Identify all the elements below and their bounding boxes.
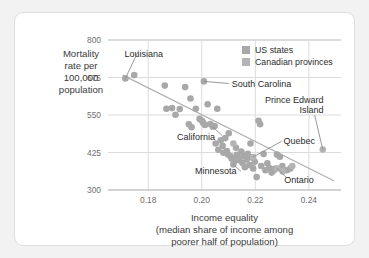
x-axis-ticks: 0.180.200.220.24: [140, 195, 317, 205]
annotation-label: Island: [300, 105, 324, 115]
legend-swatch: [242, 58, 250, 66]
x-axis-tick-label: 0.18: [140, 195, 157, 205]
data-point: [247, 140, 254, 147]
data-point: [172, 111, 179, 118]
x-axis-title-line: poorer half of population): [171, 236, 278, 247]
x-axis-title-line: Income equality: [191, 212, 258, 223]
annotation-label: Prince Edward: [265, 95, 324, 105]
y-axis-title-line: population: [59, 84, 103, 95]
y-axis-ticks: 300425550675800: [87, 35, 101, 195]
x-axis-title: Income equality(median share of income a…: [156, 212, 294, 247]
data-point: [163, 105, 170, 112]
annotation-leader-line: [315, 115, 323, 150]
y-axis-tick-label: 800: [87, 35, 101, 45]
annotation-label: Quebec: [283, 136, 315, 146]
annotation-leaders: [125, 51, 322, 178]
data-point: [277, 153, 284, 160]
y-axis-tick-label: 550: [87, 110, 101, 120]
y-axis-title-line: 100,000: [64, 72, 99, 83]
annotation-label: Minnesota: [195, 166, 237, 176]
data-point: [230, 140, 237, 147]
trend-line: [123, 75, 335, 181]
data-point: [182, 84, 189, 91]
regression-line: [123, 75, 335, 181]
data-point: [219, 143, 226, 150]
scatter-chart: 300425550675800 0.180.200.220.24 Louisia…: [15, 13, 356, 247]
data-point: [289, 163, 296, 170]
x-axis-title-line: (median share of income among: [156, 224, 294, 235]
chart-card: 300425550675800 0.180.200.220.24 Louisia…: [14, 12, 355, 246]
annotation-label: Ontario: [284, 175, 314, 185]
legend-swatch: [242, 46, 250, 54]
y-axis-tick-label: 425: [87, 148, 101, 158]
legend-label: Canadian provinces: [255, 57, 333, 67]
annotation-label: Louisiana: [125, 49, 164, 59]
data-point: [253, 174, 260, 181]
legend-label: US states: [255, 45, 294, 55]
data-point: [257, 121, 264, 128]
data-point: [161, 82, 168, 89]
chart-svg: 300425550675800 0.180.200.220.24 Louisia…: [15, 13, 356, 247]
y-axis-title-line: rate per: [64, 60, 98, 71]
data-point: [225, 130, 232, 137]
data-point: [131, 72, 138, 79]
annotation-label: South Carolina: [232, 79, 292, 89]
x-axis-tick-label: 0.22: [247, 195, 264, 205]
annotation-label: California: [177, 132, 215, 142]
y-axis-title-line: Mortality: [63, 48, 99, 59]
data-point: [250, 165, 257, 172]
y-axis-tick-label: 300: [87, 185, 101, 195]
data-point: [204, 101, 211, 108]
data-point: [214, 105, 221, 112]
y-axis-title: Mortalityrate per100,000population: [59, 48, 103, 95]
annotation-leader-line: [204, 81, 229, 83]
x-axis-tick-label: 0.20: [194, 195, 211, 205]
data-point: [122, 75, 129, 82]
data-point: [187, 95, 194, 102]
data-point: [176, 106, 183, 113]
data-point: [188, 124, 195, 131]
data-point: [193, 105, 200, 112]
x-axis-tick-label: 0.24: [301, 195, 318, 205]
data-point: [169, 105, 176, 112]
